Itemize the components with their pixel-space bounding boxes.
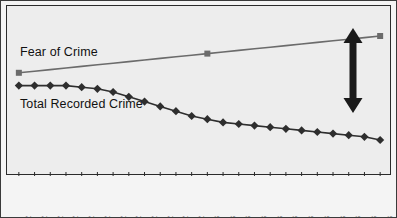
x-axis-tick-label: Mar-03 [242, 216, 254, 218]
series-label-fear-of-crime: Fear of Crime [20, 45, 98, 59]
x-axis-tick-label: Nov-03 [368, 216, 380, 218]
data-point-marker-diamond [30, 82, 38, 90]
data-point-marker-diamond [15, 82, 23, 90]
x-axis-tick-label: Mar-02 [54, 216, 66, 218]
x-axis-tick-labels: Jan-02Feb-02Mar-02Apr-02May-02Jun-02Jul-… [6, 176, 391, 218]
x-axis-tick-label: Oct-02 [164, 216, 176, 218]
x-axis-tick-label: Dec-03 [384, 216, 396, 218]
data-point-marker-square [204, 51, 210, 57]
data-point-marker-diamond [172, 107, 180, 115]
data-point-marker-diamond [235, 120, 243, 128]
x-axis-tick-label: Sep-02 [148, 216, 160, 218]
data-point-marker-diamond [109, 88, 117, 96]
data-point-marker-diamond [250, 122, 258, 130]
x-axis-tick-label: Aug-03 [321, 216, 333, 218]
series-line [19, 86, 380, 140]
x-axis-tick-label: Apr-03 [258, 216, 270, 218]
x-axis-tick-label: Apr-02 [69, 216, 81, 218]
x-axis-tick-label: Jan-03 [211, 216, 223, 218]
x-axis-tick-label: Feb-03 [227, 216, 239, 218]
x-axis-tick-label: Jul-03 [305, 216, 317, 218]
plot-canvas [7, 6, 392, 176]
data-point-marker-diamond [298, 126, 306, 134]
x-axis-tick-label: Nov-02 [179, 216, 191, 218]
x-axis-tick-label: Sep-03 [337, 216, 349, 218]
data-point-marker-diamond [313, 128, 321, 136]
x-axis-tick-label: Oct-03 [352, 216, 364, 218]
data-point-marker-diamond [93, 85, 101, 93]
series-total-recorded-crime [15, 82, 384, 145]
data-point-marker-diamond [46, 82, 54, 90]
crime-trend-chart: Fear of Crime Total Recorded Crime Jan-0… [0, 0, 397, 218]
data-point-marker-diamond [376, 136, 384, 144]
data-point-marker-diamond [203, 115, 211, 123]
data-point-marker-diamond [266, 123, 274, 131]
x-axis-tick-label: Dec-02 [195, 216, 207, 218]
plot-area: Fear of Crime Total Recorded Crime [6, 5, 391, 175]
data-point-marker-diamond [360, 133, 368, 141]
data-point-marker-diamond [156, 102, 164, 110]
data-point-marker-diamond [62, 82, 70, 90]
x-axis-tick-label: May-03 [274, 216, 286, 218]
x-axis-tick-label: Jun-02 [101, 216, 113, 218]
data-point-marker-diamond [219, 118, 227, 126]
x-axis-tick-label: Jun-03 [289, 216, 301, 218]
data-point-marker-square [16, 70, 22, 76]
data-point-marker-diamond [78, 83, 86, 91]
gap-arrow-icon [344, 28, 363, 113]
x-axis-tick-label: Jul-02 [117, 216, 129, 218]
data-point-marker-diamond [282, 125, 290, 133]
data-point-marker-diamond [329, 130, 337, 138]
data-point-marker-diamond [188, 112, 196, 120]
x-axis-tick-label: Jan-02 [22, 216, 34, 218]
data-point-marker-diamond [345, 131, 353, 139]
x-axis-tick-label: Aug-02 [132, 216, 144, 218]
x-axis-tick-label: Feb-02 [38, 216, 50, 218]
x-axis-tick-label: May-02 [85, 216, 97, 218]
data-point-marker-square [377, 33, 383, 39]
series-label-total-recorded-crime: Total Recorded Crime [20, 97, 143, 111]
